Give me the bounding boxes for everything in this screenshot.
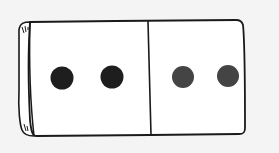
domino-tile	[0, 0, 279, 153]
illustration-canvas	[0, 0, 279, 153]
pip-left-2	[101, 66, 124, 89]
pip-left-1	[51, 67, 74, 90]
pip-right-2	[217, 65, 239, 87]
pip-right-1	[172, 66, 194, 88]
